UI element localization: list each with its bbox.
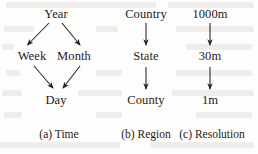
edge-week-day <box>34 66 53 88</box>
edge-month-day <box>63 66 80 88</box>
caption-region: (b) Region <box>121 128 171 141</box>
node-month: Month <box>57 50 91 63</box>
caption-time: (a) Time <box>39 128 78 141</box>
edge-year-month <box>62 23 80 45</box>
node-country: Country <box>125 8 167 21</box>
node-30m: 30m <box>199 50 222 63</box>
node-state: State <box>133 50 159 63</box>
node-1m: 1m <box>202 94 218 107</box>
node-county: County <box>127 94 164 107</box>
node-week: Week <box>18 50 47 63</box>
edge-year-week <box>28 23 50 45</box>
caption-resolution: (c) Resolution <box>179 128 244 141</box>
node-year: Year <box>44 8 67 21</box>
concept-hierarchy-figure: Year Week Month Day (a) Time Country Sta… <box>0 0 258 154</box>
node-day: Day <box>45 94 66 107</box>
node-1000m: 1000m <box>192 8 227 21</box>
